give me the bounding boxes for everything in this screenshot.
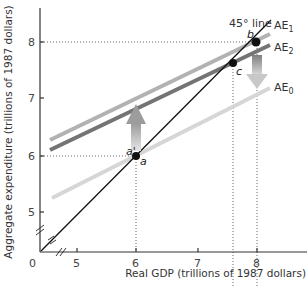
y-tick-5: 5	[28, 206, 35, 219]
ae0-line	[52, 88, 270, 198]
x-tick-5: 5	[73, 257, 80, 270]
point-label-a-prime: a'	[126, 145, 136, 158]
ae0-label: AE0	[274, 81, 294, 96]
point-label-b: b	[247, 28, 254, 41]
y-tick-6: 6	[28, 150, 35, 163]
ae1-line	[50, 34, 270, 140]
45-degree-line	[41, 20, 271, 251]
origin-label: 0	[29, 257, 36, 270]
dotted-guides	[41, 42, 257, 286]
arrow-down-icon	[246, 55, 268, 89]
ae1-label: AE1	[274, 19, 294, 34]
y-tick-7: 7	[28, 92, 35, 105]
point-label-a: a	[140, 155, 147, 168]
ae2-line	[50, 45, 270, 150]
ae2-label: AE2	[274, 41, 294, 56]
x-axis-title: Real GDP (trillions of 1987 dollars)	[125, 267, 306, 279]
y-axis-title: Aggregate expenditure (trillions of 1987…	[2, 5, 14, 258]
point-label-c: c	[236, 65, 242, 78]
keynesian-cross-chart: 0 5 6 7 8 8 7 6 5 Real GDP (trillions of…	[0, 0, 307, 286]
y-tick-8: 8	[28, 36, 35, 49]
